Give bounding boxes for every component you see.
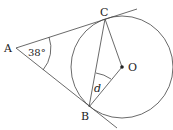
tangent-line-ab bbox=[16, 48, 117, 128]
angle-d-arc bbox=[96, 73, 111, 79]
angle-a-value: 38° bbox=[28, 47, 46, 58]
tangent-line-ac bbox=[16, 9, 137, 48]
label-c: C bbox=[100, 6, 108, 19]
label-b: B bbox=[81, 110, 89, 123]
center-point-o bbox=[120, 65, 124, 69]
geometry-diagram: A C O B 38° d bbox=[0, 0, 173, 130]
label-o: O bbox=[128, 61, 137, 74]
label-a: A bbox=[3, 42, 13, 55]
angle-d-label: d bbox=[94, 82, 101, 95]
radius-oc bbox=[105, 19, 122, 67]
